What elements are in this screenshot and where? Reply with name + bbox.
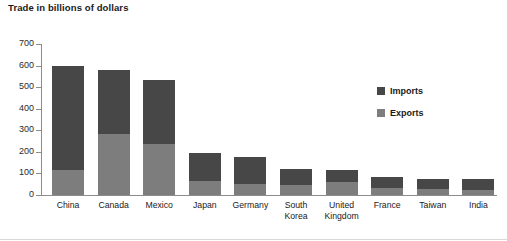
y-axis-tick-label: 700 <box>0 38 34 48</box>
legend-item-exports: Exports <box>377 108 424 118</box>
trade-bar-chart: Trade in billions of dollars 01002003004… <box>0 0 507 241</box>
bar-segment-exports <box>417 189 449 195</box>
bar-segment-exports <box>189 181 221 195</box>
x-axis-line <box>41 195 497 196</box>
y-axis-tick-label: 500 <box>0 81 34 91</box>
bar-india <box>462 179 494 195</box>
bar-segment-exports <box>143 144 175 195</box>
bar-canada <box>98 70 130 195</box>
chart-title: Trade in billions of dollars <box>8 2 129 13</box>
bar-united-kingdom <box>326 170 358 195</box>
x-axis-label-india: India <box>445 200 507 211</box>
bar-france <box>371 177 403 195</box>
bar-segment-imports <box>326 170 358 182</box>
bar-segment-imports <box>462 179 494 190</box>
bar-germany <box>234 157 266 195</box>
y-axis-tick <box>36 195 42 196</box>
bar-segment-exports <box>462 190 494 195</box>
y-axis-tick-label: 0 <box>0 189 34 199</box>
bar-segment-imports <box>280 169 312 185</box>
bar-china <box>52 66 84 195</box>
bar-segment-imports <box>417 179 449 190</box>
legend-swatch-exports-icon <box>377 109 385 117</box>
bar-segment-imports <box>143 80 175 144</box>
y-axis-tick-label: 100 <box>0 167 34 177</box>
bar-segment-imports <box>52 66 84 170</box>
footer-divider <box>0 239 507 240</box>
chart-legend: Imports Exports <box>377 86 424 130</box>
bar-segment-exports <box>371 188 403 195</box>
bar-segment-imports <box>98 70 130 134</box>
legend-label-imports: Imports <box>390 86 423 96</box>
bar-segment-exports <box>98 134 130 195</box>
legend-label-exports: Exports <box>390 108 424 118</box>
bar-south-korea <box>280 169 312 195</box>
y-axis-tick-label: 400 <box>0 103 34 113</box>
bar-mexico <box>143 80 175 195</box>
bar-taiwan <box>417 179 449 195</box>
bar-japan <box>189 153 221 195</box>
y-axis-tick-label: 600 <box>0 60 34 70</box>
bar-segment-exports <box>280 185 312 195</box>
legend-item-imports: Imports <box>377 86 424 96</box>
y-axis-tick-label: 200 <box>0 146 34 156</box>
bar-segment-imports <box>234 157 266 184</box>
bar-segment-exports <box>234 184 266 195</box>
y-axis-tick-label: 300 <box>0 124 34 134</box>
legend-swatch-imports-icon <box>377 87 385 95</box>
bar-segment-imports <box>371 177 403 188</box>
bar-segment-exports <box>326 182 358 195</box>
bar-segment-exports <box>52 170 84 195</box>
bar-segment-imports <box>189 153 221 182</box>
